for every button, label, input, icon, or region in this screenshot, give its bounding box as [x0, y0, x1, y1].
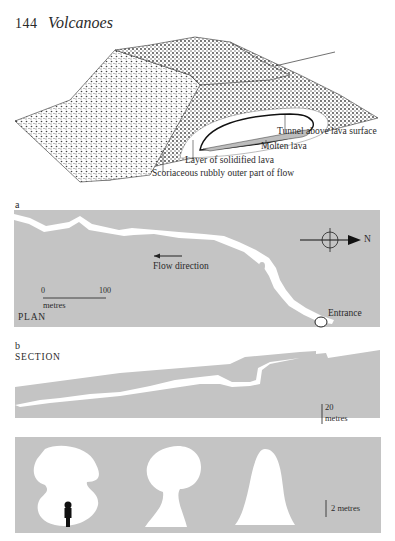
- section-profile: [0, 340, 395, 420]
- scale-start: 0: [41, 286, 45, 295]
- label-molten-lava: Molten lava: [261, 141, 307, 151]
- entrance-label: Entrance: [328, 308, 362, 318]
- panel-a-letter: a: [15, 199, 19, 210]
- north-label: N: [364, 234, 371, 244]
- section-scale-value: 20: [325, 402, 334, 412]
- cross-sections-panel: 2 metres: [15, 437, 381, 533]
- label-tunnel-above-lava: Tunnel above lava surface: [277, 126, 377, 136]
- plan-panel: Flow direction Entrance N 0 100 metres P…: [14, 210, 380, 327]
- cross-section-2: [145, 446, 201, 527]
- flow-direction-label: Flow direction: [153, 261, 209, 271]
- section-scale-unit: metres: [325, 413, 348, 423]
- cross-section-3: [235, 449, 295, 525]
- section-panel: 20 metres: [0, 340, 395, 420]
- label-solidified-lava: Layer of solidified lava: [185, 155, 274, 165]
- plan-title: PLAN: [18, 312, 46, 322]
- north-arrow-icon: [300, 228, 361, 252]
- scale-end: 100: [99, 286, 111, 295]
- scale-unit: metres: [43, 300, 66, 310]
- cross-section-shapes: [15, 437, 381, 533]
- label-scoriaceous-outer: Scoriaceous rubbly outer part of flow: [152, 168, 294, 178]
- lava-tube-block-diagram: Tunnel above lava surface Molten lava La…: [0, 0, 395, 205]
- cross-section-scale: 2 metres: [331, 503, 360, 513]
